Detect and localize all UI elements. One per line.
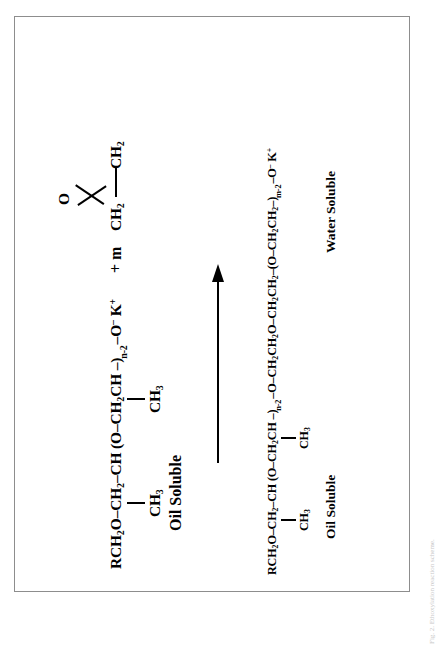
reactant-pendant-methyl-2: CH3 [127,385,165,413]
figure-frame: RCH2O–CH2–CH (O–CH2CH –)n-2–O– K+ CH3 CH… [14,16,410,592]
bond-tick [281,519,296,521]
epoxide-carbon-right-label: CH2 [107,141,126,169]
reactant-pendant-methyl-2-label: CH3 [146,385,163,413]
reaction-arrow-shaft [217,275,219,463]
product-solubility-label-water: Water Soluble [323,171,339,253]
bond-tick [281,437,296,439]
reactant-pendant-methyl-1-label: CH3 [146,489,163,517]
epoxide-oxygen-label: O [55,193,73,205]
reactant-formula: RCH2O–CH2–CH (O–CH2CH –)n-2–O– K+ [107,299,126,569]
reaction-scheme: RCH2O–CH2–CH (O–CH2CH –)n-2–O– K+ CH3 CH… [15,17,409,591]
reaction-arrow-head [212,264,224,282]
product-row: RCH2O–CH2–CH (O–CH2CH –)n-2–O–CH2CH2O–CH… [231,17,409,591]
product-pendant-methyl-1: CH3 [281,509,312,531]
figure-caption: Fig. 2. Ethoxylation reaction scheme. [425,524,439,644]
product-pendant-methyl-2: CH3 [281,427,312,449]
bond-tick [127,502,145,504]
bond-tick [127,398,145,400]
ethylene-oxide-epoxide: O CH2 CH2 [55,119,147,231]
product-formula: RCH2O–CH2–CH (O–CH2CH –)n-2–O–CH2CH2O–CH… [265,148,280,575]
product-pendant-methyl-1-label: CH3 [297,509,311,531]
epoxide-carbon-left-label: CH2 [107,203,126,231]
product-pendant-methyl-2-label: CH3 [297,427,311,449]
product-solubility-label-oil: Oil Soluble [323,475,339,539]
epoxide-bond-c-c [115,167,117,197]
stoichiometry-plus-m: + m [107,247,125,273]
reactant-solubility-label: Oil Soluble [167,455,185,531]
reactant-pendant-methyl-1: CH3 [127,489,165,517]
reaction-arrow [211,261,225,463]
reactant-row: RCH2O–CH2–CH (O–CH2CH –)n-2–O– K+ CH3 CH… [15,17,211,591]
